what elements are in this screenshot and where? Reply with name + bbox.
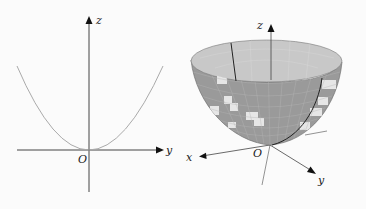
right-figure: z x y O [186,19,342,187]
z-axis-down-3d [262,145,270,185]
y-axis-3d [270,145,312,171]
paraboloid-rim-inner [191,40,342,82]
back-axis-segment [305,131,327,135]
z-label-2d: z [95,14,102,27]
y-axis-arrow-icon [156,147,164,154]
x-axis-arrow-icon [199,153,207,159]
y-label-2d: y [165,144,173,157]
origin-label-3d: O [253,147,262,160]
left-figure: z y O [17,14,173,192]
parabola-curve [17,66,163,150]
z-axis-arrow-icon [86,16,93,24]
figure-canvas: z y O [0,0,366,209]
x-label-3d: x [186,151,193,164]
y-label-3d: y [317,174,325,187]
origin-label-2d: O [78,153,87,166]
z-axis-arrow-icon-3d [268,24,275,32]
y-axis-arrow-icon [307,167,316,175]
z-label-3d: z [256,19,263,32]
